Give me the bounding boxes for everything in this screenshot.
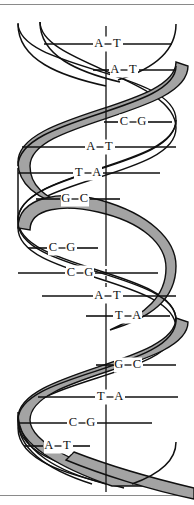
base-label-right: T xyxy=(63,438,71,452)
base-label-right: A xyxy=(132,308,141,322)
base-label-left: T xyxy=(75,165,83,179)
base-label-right: G xyxy=(84,265,93,279)
base-label-right: T xyxy=(113,288,121,302)
base-label-left: C xyxy=(69,415,78,429)
base-label-right: A xyxy=(114,389,123,403)
base-label-right: G xyxy=(66,240,75,254)
base-label-left: G xyxy=(61,191,70,205)
base-label-right: C xyxy=(133,357,142,371)
base-label-left: A xyxy=(94,288,103,302)
base-label-left: C xyxy=(120,114,129,128)
dna-helix-figure: ATATCGATTAGCCGCGATTAGCTACGAT A–T, A–T, C… xyxy=(0,0,194,505)
base-label-left: C xyxy=(49,240,58,254)
base-label-right: C xyxy=(80,191,89,205)
base-label-left: A xyxy=(86,139,95,153)
base-label-right: T xyxy=(105,139,113,153)
base-label-left: C xyxy=(67,265,76,279)
base-label-left: A xyxy=(94,36,103,50)
base-label-left: A xyxy=(110,62,119,76)
dna-helix-canvas: ATATCGATTAGCCGCGATTAGCTACGAT xyxy=(0,0,194,505)
base-label-right: A xyxy=(92,165,101,179)
base-label-right: G xyxy=(86,415,95,429)
base-label-right: T xyxy=(129,62,137,76)
base-label-left: T xyxy=(115,308,123,322)
base-label-left: A xyxy=(44,438,53,452)
base-label-left: T xyxy=(97,389,105,403)
base-label-left: G xyxy=(114,357,123,371)
base-label-right: G xyxy=(137,114,146,128)
base-label-right: T xyxy=(113,36,121,50)
